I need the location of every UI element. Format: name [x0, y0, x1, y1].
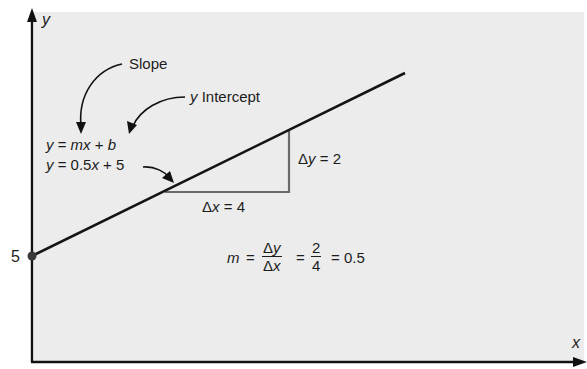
y-intercept-point	[28, 252, 37, 261]
formula-equals-1: =	[246, 250, 255, 265]
denominator-var: x	[273, 257, 281, 274]
delta-symbol: Δ	[202, 198, 212, 215]
delta-y-var: y	[308, 150, 316, 167]
numerator-var: y	[273, 239, 281, 256]
eq-y: y	[46, 136, 54, 153]
y-axis-label: y	[42, 12, 50, 28]
formula-fraction-values: 2 4	[311, 240, 321, 273]
eq-b: b	[108, 136, 116, 153]
specific-equation: y = 0.5x + 5	[46, 157, 124, 172]
fraction-numerator-2: 2	[311, 240, 321, 257]
plot-background	[34, 12, 584, 361]
y-intercept-var: y	[190, 88, 198, 105]
delta-y-label: Δy = 2	[298, 151, 341, 166]
delta-y-value: = 2	[316, 150, 341, 167]
seq-x: x	[91, 156, 99, 173]
x-axis-label: x	[572, 335, 580, 351]
general-equation: y = mx + b	[46, 137, 116, 152]
formula-equals-2: =	[296, 250, 305, 265]
seq-coef: = 0.5	[54, 156, 92, 173]
delta-x-var: x	[212, 198, 220, 215]
seq-rest: + 5	[99, 156, 124, 173]
delta-x-label: Δx = 4	[202, 199, 245, 214]
y-intercept-word: Intercept	[202, 88, 260, 105]
fraction-denominator: Δx	[263, 257, 281, 273]
eq-mx: mx	[71, 136, 91, 153]
eq-plus: +	[91, 136, 108, 153]
slope-intercept-diagram	[0, 0, 587, 369]
formula-result: = 0.5	[331, 250, 365, 265]
delta-symbol: Δ	[263, 239, 273, 256]
delta-x-value: = 4	[220, 198, 245, 215]
formula-fraction-delta: Δy Δx	[262, 240, 282, 273]
slope-label: Slope	[129, 56, 167, 71]
formula-m: m	[227, 250, 240, 265]
y-intercept-tick-label: 5	[11, 249, 20, 265]
delta-symbol: Δ	[298, 150, 308, 167]
delta-symbol: Δ	[263, 257, 273, 274]
y-intercept-label: y Intercept	[190, 89, 260, 104]
seq-y: y	[46, 156, 54, 173]
fraction-denominator-2: 4	[312, 257, 320, 273]
eq-equals: =	[54, 136, 71, 153]
fraction-numerator: Δy	[262, 240, 282, 257]
